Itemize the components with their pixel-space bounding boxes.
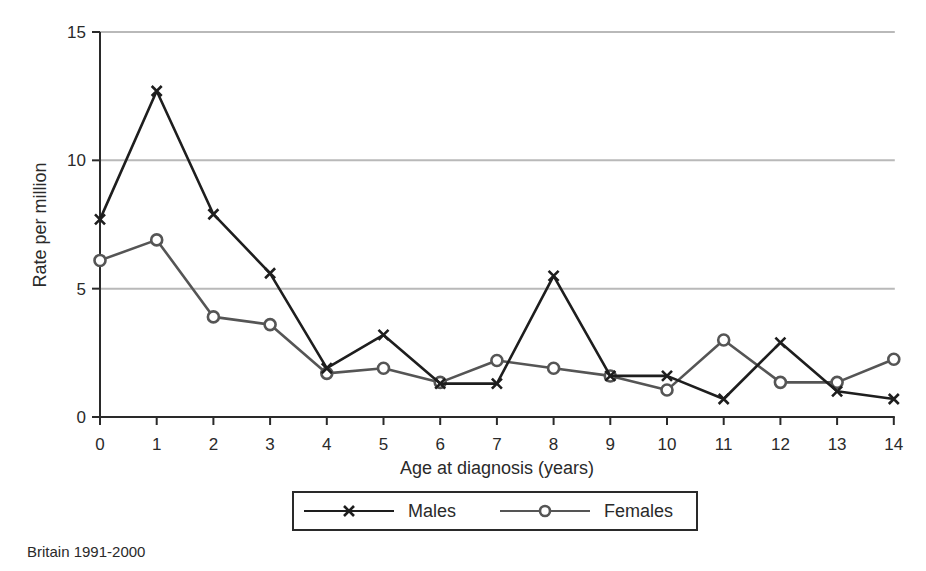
x-tick-label: 8 (549, 435, 558, 454)
circle-marker-icon (662, 385, 673, 396)
x-tick-label: 9 (606, 435, 615, 454)
circle-marker-icon (378, 363, 389, 374)
y-tick-label: 10 (67, 151, 86, 170)
x-tick-label: 7 (492, 435, 501, 454)
gridlines (100, 32, 895, 289)
x-marker-icon (265, 268, 275, 278)
data-series (95, 86, 900, 404)
x-tick-label: 6 (435, 435, 444, 454)
males-line-x-marker-icon (304, 501, 394, 521)
circle-marker-icon (95, 255, 106, 266)
x-tick-label: 2 (209, 435, 218, 454)
circle-marker-icon (151, 234, 162, 245)
circle-marker-icon (548, 363, 559, 374)
circle-marker-icon (888, 354, 899, 365)
x-marker-icon (208, 209, 218, 219)
y-axis-ticks: 051015 (67, 23, 100, 427)
x-tick-label: 14 (884, 435, 903, 454)
x-tick-label: 0 (95, 435, 104, 454)
x-marker-icon (152, 86, 162, 96)
y-tick-label: 0 (77, 408, 86, 427)
x-marker-icon (379, 330, 389, 340)
y-tick-label: 5 (77, 280, 86, 299)
x-tick-label: 13 (828, 435, 847, 454)
x-tick-label: 11 (715, 435, 733, 454)
legend-item-females: Females (500, 493, 673, 529)
x-tick-label: 1 (152, 435, 161, 454)
circle-marker-icon (718, 335, 729, 346)
x-marker-icon (775, 338, 785, 348)
x-tick-label: 10 (658, 435, 677, 454)
x-tick-label: 3 (265, 435, 274, 454)
caption: Britain 1991-2000 (27, 543, 145, 560)
circle-marker-icon (491, 355, 502, 366)
y-tick-label: 15 (67, 23, 86, 42)
x-tick-label: 5 (379, 435, 388, 454)
circle-marker-icon (775, 377, 786, 388)
legend: Males Females (292, 491, 698, 531)
x-axis-ticks: 01234567891011121314 (95, 417, 903, 454)
line-chart: 051015 01234567891011121314 Rate per mil… (0, 0, 926, 571)
series-females (95, 234, 900, 395)
x-axis-title: Age at diagnosis (years) (400, 458, 594, 478)
females-line-circle-marker-icon (500, 501, 590, 521)
legend-item-males: Males (304, 493, 456, 529)
x-marker-icon (719, 394, 729, 404)
y-axis-title: Rate per million (30, 162, 50, 287)
legend-label-females: Females (604, 501, 673, 522)
circle-marker-icon (265, 319, 276, 330)
x-tick-label: 4 (322, 435, 331, 454)
x-tick-label: 12 (771, 435, 790, 454)
x-marker-icon (549, 271, 559, 281)
legend-label-males: Males (408, 501, 456, 522)
circle-marker-icon (208, 311, 219, 322)
